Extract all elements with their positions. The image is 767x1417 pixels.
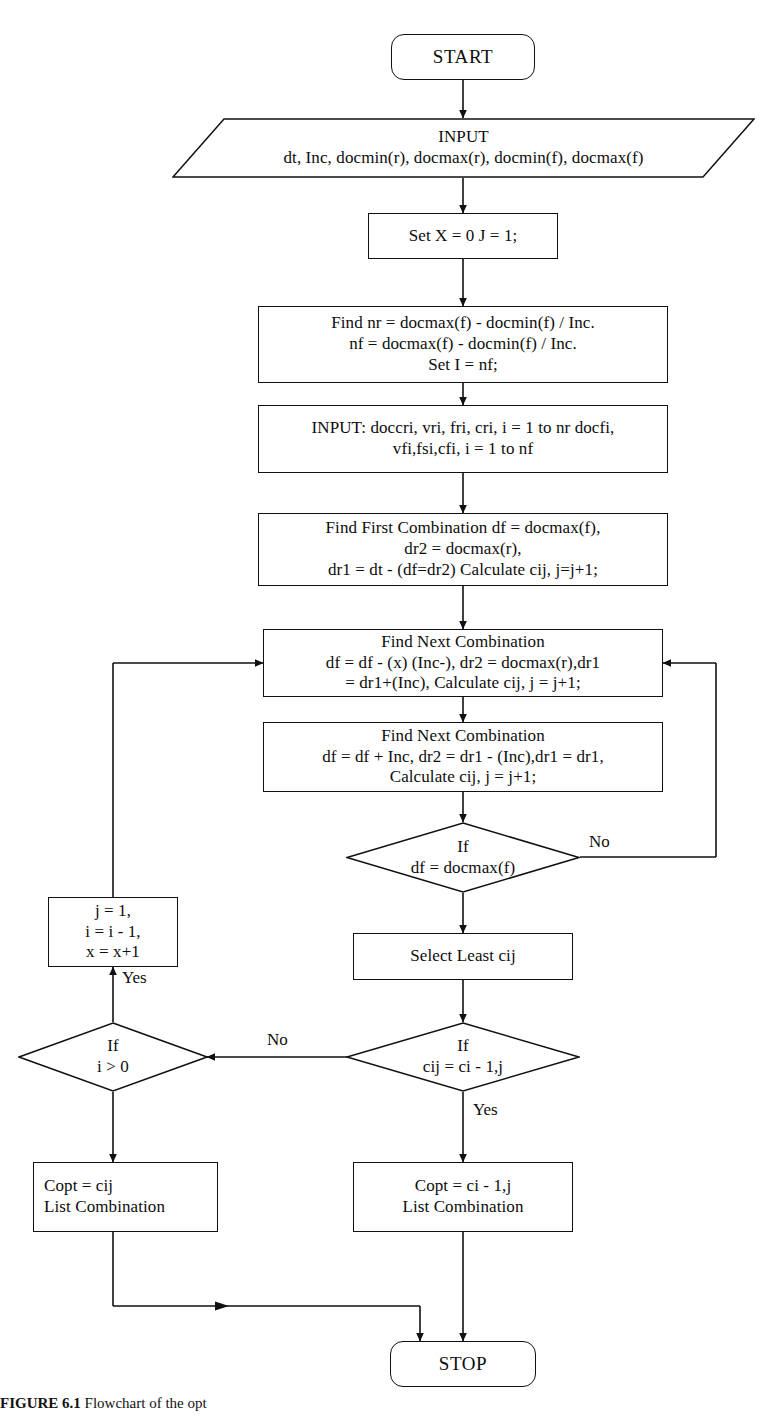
node-reset-j-label: j = 1,i = i - 1,x = x+1 bbox=[79, 901, 146, 963]
node-copt-ci-1j-label: Copt = ci - 1,jList Combination bbox=[396, 1176, 529, 1217]
node-find-next-combination-2: Find Next Combinationdf = df + Inc, dr2 … bbox=[263, 722, 663, 792]
node-start-label: START bbox=[427, 45, 500, 68]
node-set-x-j: Set X = 0 J = 1; bbox=[368, 213, 558, 259]
node-copt-ci-1j: Copt = ci - 1,jList Combination bbox=[353, 1162, 573, 1232]
node-input-doccri-label: INPUT: doccri, vri, fri, cri, i = 1 to n… bbox=[306, 418, 621, 459]
node-stop-label: STOP bbox=[433, 1352, 494, 1375]
edge-label-if-i-yes: Yes bbox=[122, 968, 147, 988]
node-find-first-combination: Find First Combination df = docmax(f),dr… bbox=[258, 513, 668, 586]
node-reset-j: j = 1,i = i - 1,x = x+1 bbox=[48, 897, 178, 967]
edge-label-if-cij-no: No bbox=[267, 1030, 288, 1050]
node-find-next-combination-1-label: Find Next Combinationdf = df - (x) (Inc-… bbox=[320, 632, 606, 694]
node-set-x-j-label: Set X = 0 J = 1; bbox=[403, 226, 524, 247]
node-copt-cij: Copt = cijList Combination bbox=[33, 1162, 218, 1232]
node-if-i-greater-zero-label: Ifi > 0 bbox=[91, 1036, 135, 1077]
node-find-next-combination-2-label: Find Next Combinationdf = df + Inc, dr2 … bbox=[316, 726, 610, 788]
node-select-least-cij-label: Select Least cij bbox=[404, 946, 521, 967]
node-find-nr-label: Find nr = docmax(f) - docmin(f) / Inc.nf… bbox=[325, 313, 601, 375]
edge-label-if-cij-yes: Yes bbox=[473, 1100, 498, 1120]
node-if-cij-equals-label: Ifcij = ci - 1,j bbox=[417, 1036, 509, 1077]
flowchart-canvas: START INPUTdt, Inc, docmin(r), docmax(r)… bbox=[0, 0, 767, 1417]
node-find-next-combination-1: Find Next Combinationdf = df - (x) (Inc-… bbox=[263, 629, 663, 697]
figure-caption: FIGURE 6.1 Flowchart of the opt bbox=[0, 1395, 767, 1417]
figure-caption-text: Flowchart of the opt bbox=[85, 1395, 207, 1411]
node-if-cij-equals: Ifcij = ci - 1,j bbox=[346, 1022, 580, 1092]
node-find-first-combination-label: Find First Combination df = docmax(f),dr… bbox=[320, 518, 607, 580]
figure-caption-prefix: FIGURE 6.1 bbox=[0, 1395, 81, 1411]
node-input-main: INPUTdt, Inc, docmin(r), docmax(r), docm… bbox=[172, 118, 755, 178]
node-if-df-docmax-label: Ifdf = docmax(f) bbox=[405, 837, 521, 878]
edge-label-if-df-no: No bbox=[589, 832, 610, 852]
node-input-doccri: INPUT: doccri, vri, fri, cri, i = 1 to n… bbox=[258, 405, 668, 473]
node-find-nr: Find nr = docmax(f) - docmin(f) / Inc.nf… bbox=[258, 306, 668, 383]
node-start: START bbox=[391, 34, 535, 80]
node-if-i-greater-zero: Ifi > 0 bbox=[18, 1022, 208, 1092]
node-if-df-docmax: Ifdf = docmax(f) bbox=[346, 822, 580, 893]
node-input-main-label: INPUTdt, Inc, docmin(r), docmax(r), docm… bbox=[277, 127, 649, 168]
node-select-least-cij: Select Least cij bbox=[353, 933, 573, 980]
node-copt-cij-label: Copt = cijList Combination bbox=[34, 1176, 171, 1217]
node-stop: STOP bbox=[390, 1341, 536, 1387]
